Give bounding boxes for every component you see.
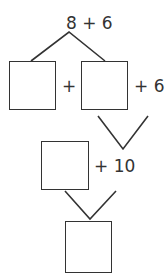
- answer-box-2[interactable]: [81, 61, 128, 110]
- addend-six: + 6: [134, 76, 164, 96]
- addend-ten: + 10: [94, 156, 135, 176]
- answer-box-1[interactable]: [9, 61, 56, 110]
- top-expression: 8 + 6: [66, 13, 113, 33]
- answer-box-4[interactable]: [65, 221, 112, 273]
- answer-box-3[interactable]: [41, 141, 89, 190]
- plus-sign: +: [62, 76, 76, 96]
